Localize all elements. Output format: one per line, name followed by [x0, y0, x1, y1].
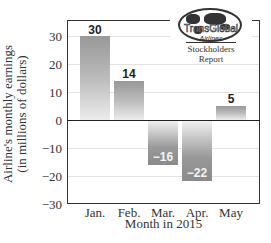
- report-line2: Report: [170, 54, 252, 64]
- value-label-mar: −16: [148, 150, 178, 164]
- report-line1: Stockholders: [170, 44, 252, 54]
- bar-feb: [114, 81, 144, 120]
- ytick-10: 10: [32, 86, 62, 99]
- ytick-20: 20: [32, 58, 62, 71]
- ytick-neg10: −10: [32, 142, 62, 155]
- ytick-30: 30: [32, 30, 62, 43]
- value-label-apr: −22: [182, 166, 212, 180]
- airline-logo: TransGlobal Airlines Stockholders Report: [170, 4, 252, 64]
- ytick-neg20: −20: [32, 170, 62, 183]
- bar-jan: [80, 36, 110, 120]
- earnings-bar-chart: 30 20 10 0 −10 −20 −30 30 14 −16 −22 5 J…: [0, 0, 271, 243]
- y-axis-label: Airline's monthly earnings (in millions …: [1, 39, 29, 189]
- value-label-feb: 14: [114, 67, 144, 81]
- ytick-neg30: −30: [32, 198, 62, 211]
- report-title: Stockholders Report: [170, 44, 252, 64]
- y-axis-label-line2: (in millions of dollars): [15, 39, 29, 189]
- ytick-0: 0: [32, 114, 62, 127]
- value-label-jan: 30: [80, 23, 110, 37]
- brand-name: TransGlobal: [170, 23, 252, 34]
- y-axis-label-line1: Airline's monthly earnings: [1, 39, 15, 189]
- value-label-may: 5: [216, 92, 246, 106]
- brand-sub: Airlines: [186, 35, 236, 43]
- x-axis-label: Month in 2015: [67, 216, 260, 232]
- bar-may: [216, 106, 246, 120]
